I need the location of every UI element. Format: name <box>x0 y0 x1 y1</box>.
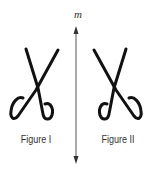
figure-2-scissors <box>94 49 141 119</box>
figure-2-label: Figure II <box>91 134 145 146</box>
figure-1-scissors <box>11 49 58 119</box>
arrowhead-up-icon <box>74 26 79 34</box>
line-of-reflection-m <box>74 26 79 164</box>
line-label-m: m <box>71 8 85 20</box>
arrowhead-down-icon <box>74 156 79 164</box>
figure-1-label: Figure I <box>9 134 63 146</box>
reflection-diagram: m Figure I Figure II <box>0 0 153 169</box>
